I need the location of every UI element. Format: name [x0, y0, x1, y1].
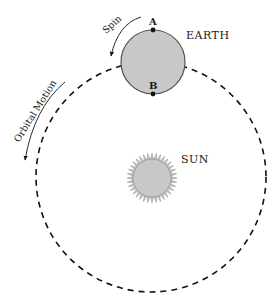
- earth-label: EARTH: [186, 29, 230, 42]
- diagram-canvas: SUN A B EARTH Spin Orbital Motion: [0, 0, 279, 302]
- point-a-label: A: [148, 16, 157, 27]
- sun: [127, 153, 177, 203]
- spin-label: Spin: [100, 13, 124, 36]
- point-b-marker: [151, 92, 156, 97]
- orbital-motion-label: Orbital Motion: [11, 78, 58, 144]
- point-a-marker: [151, 28, 156, 33]
- sun-disc: [133, 159, 171, 197]
- sun-label: SUN: [181, 153, 209, 166]
- point-b-label: B: [149, 80, 157, 91]
